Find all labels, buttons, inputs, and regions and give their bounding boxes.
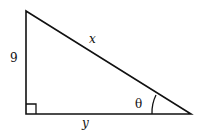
label-horizontal-leg: y (81, 116, 89, 130)
label-hypotenuse: x (89, 32, 96, 46)
right-triangle-diagram: 9 x y θ (0, 0, 198, 139)
triangle (26, 11, 191, 114)
label-vertical-leg: 9 (10, 51, 18, 65)
angle-arc (152, 95, 156, 114)
label-angle-theta: θ (135, 97, 142, 111)
right-angle-marker (26, 104, 36, 114)
